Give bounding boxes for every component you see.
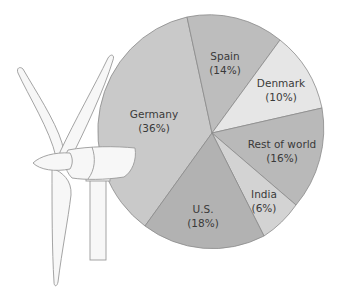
label-rest-of-world-name: Rest of world <box>248 138 317 150</box>
label-germany-pct: (36%) <box>138 122 170 134</box>
pie-chart: Germany (36%) Spain (14%) Denmark (10%) … <box>0 0 338 302</box>
label-spain-pct: (14%) <box>209 64 241 76</box>
label-us-name: U.S. <box>192 203 213 215</box>
label-rest-of-world-pct: (16%) <box>266 152 298 164</box>
label-india-name: India <box>251 188 277 200</box>
wind-power-pie-figure: Germany (36%) Spain (14%) Denmark (10%) … <box>0 0 338 302</box>
label-denmark-pct: (10%) <box>265 91 297 103</box>
turbine-blade-down <box>52 168 71 286</box>
turbine-tower <box>90 180 106 260</box>
label-germany-name: Germany <box>130 108 178 120</box>
turbine-nose-cone <box>33 153 72 171</box>
label-denmark-name: Denmark <box>257 77 306 89</box>
label-india-pct: (6%) <box>252 202 277 214</box>
turbine-blade-left <box>17 68 62 157</box>
turbine-nacelle <box>65 147 135 180</box>
label-us-pct: (18%) <box>187 217 219 229</box>
label-spain-name: Spain <box>210 50 239 62</box>
